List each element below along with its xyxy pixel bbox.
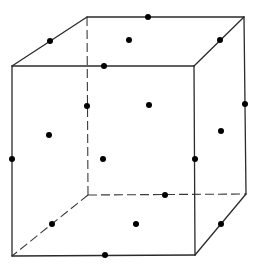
edge-midpoint-vertical-back-right: [242, 101, 248, 107]
edge-midpoint-bottom-left: [49, 221, 55, 227]
edge-midpoint-top-back: [145, 14, 151, 20]
face-center-left: [46, 132, 52, 138]
edge-midpoint-vertical-back-left: [84, 103, 90, 109]
edge-midpoint-bottom-right: [218, 221, 224, 227]
edge-midpoint-top-left: [47, 38, 53, 44]
face-center-front: [100, 156, 106, 162]
edge-midpoint-sites: [9, 14, 248, 258]
cube-lattice-diagram: [0, 0, 258, 267]
face-center-top: [126, 37, 132, 43]
face-center-bottom: [133, 221, 139, 227]
edge-midpoint-vertical-front-right: [192, 156, 198, 162]
edge-midpoint-top-right: [217, 37, 223, 43]
edge-midpoint-bottom-back: [162, 192, 168, 198]
face-center-back: [146, 102, 152, 108]
edge-midpoint-bottom-front: [102, 252, 108, 258]
edge-midpoint-vertical-front-left: [9, 156, 15, 162]
face-center-right: [218, 128, 224, 134]
edge-midpoint-top-front: [101, 63, 107, 69]
